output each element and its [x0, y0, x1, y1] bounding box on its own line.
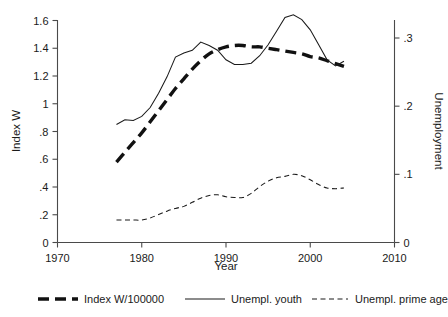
left-tick-label: 1.2: [33, 70, 48, 82]
right-axis: 0.1.2.3 Unemployment: [395, 20, 446, 249]
x-tick-label: 2010: [382, 252, 406, 264]
left-tick-label: 0: [42, 237, 48, 249]
left-tick-label: .6: [39, 153, 48, 165]
series-line-index-w: [116, 45, 343, 162]
left-tick-label: .4: [39, 181, 48, 193]
x-axis: 19701980199020002010 Year: [45, 243, 406, 273]
x-tick-label: 1980: [130, 252, 154, 264]
x-axis-title: Year: [214, 260, 237, 272]
x-tick-label: 1970: [45, 252, 69, 264]
chart-legend: Index W/100000 Unempl. youth Unempl. pri…: [38, 293, 448, 305]
left-tick-label: .8: [39, 126, 48, 138]
right-axis-ticks: 0.1.2.3: [395, 32, 413, 249]
left-axis-ticks: 0.2.4.6.811.21.41.6: [33, 15, 57, 249]
series-line-unempl-youth: [116, 15, 343, 125]
legend-label-index-w: Index W/100000: [84, 293, 164, 305]
chart-figure: 0.2.4.6.811.21.41.6 Index W 0.1.2.3 Unem…: [0, 0, 448, 317]
series-line-unempl-prime-age: [116, 174, 343, 220]
right-tick-label: .3: [404, 32, 413, 44]
left-tick-label: 1.6: [33, 15, 48, 27]
data-series-group: [116, 15, 343, 220]
right-tick-label: 0: [404, 237, 410, 249]
legend-label-unempl-prime-age: Unempl. prime age: [355, 293, 448, 305]
legend-label-unempl-youth: Unempl. youth: [231, 293, 302, 305]
right-axis-title: Unemployment: [433, 92, 445, 170]
chart-canvas: 0.2.4.6.811.21.41.6 Index W 0.1.2.3 Unem…: [0, 0, 448, 317]
right-tick-label: .2: [404, 100, 413, 112]
left-tick-label: 1: [42, 98, 48, 110]
x-tick-label: 2000: [298, 252, 322, 264]
left-axis: 0.2.4.6.811.21.41.6 Index W: [10, 15, 58, 249]
left-tick-label: 1.4: [33, 42, 48, 54]
left-axis-title: Index W: [10, 110, 22, 152]
left-tick-label: .2: [39, 209, 48, 221]
right-tick-label: .1: [404, 168, 413, 180]
